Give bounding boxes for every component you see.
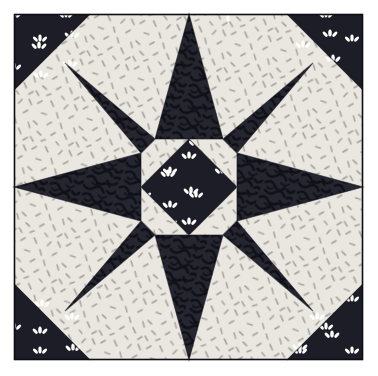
quilt-canvas: Eight-Pointed Star Quilt Block [0, 0, 378, 376]
quilt-block-illustration [0, 0, 378, 376]
